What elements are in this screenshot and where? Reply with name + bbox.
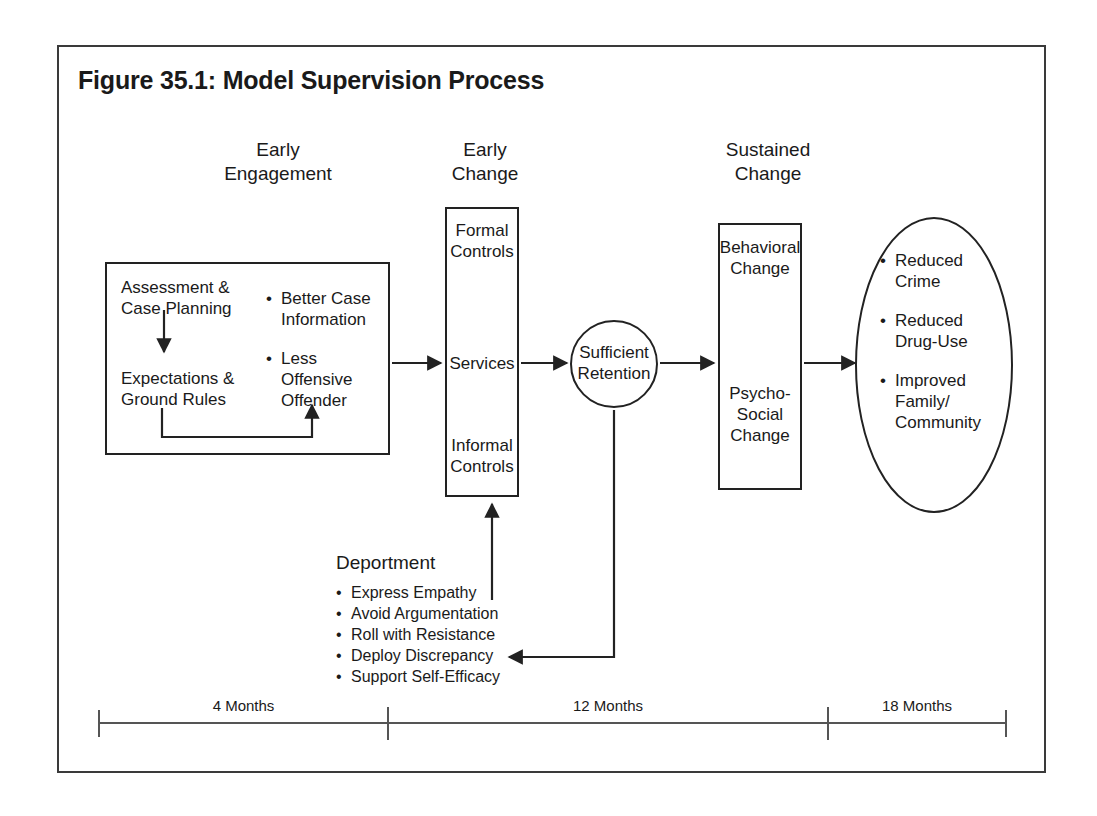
list-item: Express Empathy xyxy=(336,583,556,603)
behavioral-change-label: Behavioral Change xyxy=(719,237,801,279)
deportment-list: Express Empathy Avoid Argumentation Roll… xyxy=(336,583,556,688)
list-item: Support Self-Efficacy xyxy=(336,667,556,687)
timeline-label-12-months: 12 Months xyxy=(388,697,828,714)
outcomes-list: Reduced Crime Reduced Drug-Use Improved … xyxy=(880,250,1005,451)
list-item: Deploy Discrepancy xyxy=(336,646,556,666)
early-engagement-outcomes-list: Better Case Information Less Offensive O… xyxy=(266,288,391,429)
informal-controls-label: Informal Controls xyxy=(446,435,518,477)
list-item: Reduced Crime xyxy=(880,250,1005,292)
formal-controls-label: Formal Controls xyxy=(446,220,518,262)
figure-container: Figure 35.1: Model Supervision Process E… xyxy=(0,0,1097,816)
list-item: Roll with Resistance xyxy=(336,625,556,645)
services-label: Services xyxy=(446,353,518,374)
list-item: Reduced Drug-Use xyxy=(880,310,1005,352)
psycho-social-change-label: Psycho- Social Change xyxy=(719,383,801,446)
timeline-label-18-months: 18 Months xyxy=(828,697,1006,714)
sufficient-retention-label: Sufficient Retention xyxy=(566,342,662,384)
assessment-case-planning-label: Assessment & Case Planning xyxy=(121,277,281,319)
timeline-label-4-months: 4 Months xyxy=(99,697,388,714)
list-item: Better Case Information xyxy=(266,288,391,330)
deportment-title: Deportment xyxy=(336,552,435,574)
list-item: Less Offensive Offender xyxy=(266,348,391,411)
list-item: Improved Family/ Community xyxy=(880,370,1005,433)
list-item: Avoid Argumentation xyxy=(336,604,556,624)
